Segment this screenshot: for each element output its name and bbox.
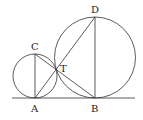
label-t: T xyxy=(60,64,67,74)
label-d: D xyxy=(91,5,99,15)
diagram-canvas xyxy=(0,0,143,120)
label-a: A xyxy=(31,104,38,114)
segment-ad xyxy=(35,17,95,98)
label-c: C xyxy=(31,42,39,52)
label-b: B xyxy=(91,104,98,114)
geometry-diagram: D C T A B xyxy=(0,0,143,120)
segment-cb xyxy=(35,54,95,98)
